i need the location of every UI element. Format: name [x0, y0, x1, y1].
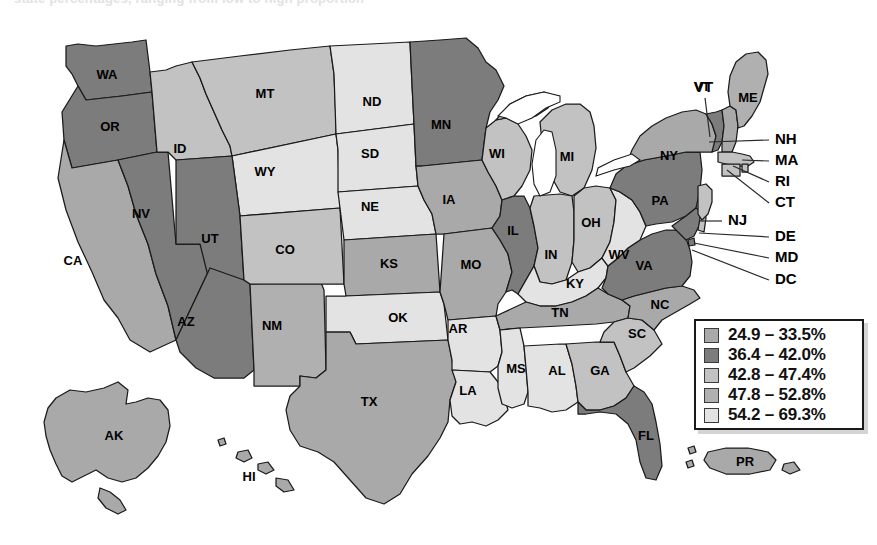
state-label-MI: MI — [560, 149, 574, 164]
legend-row[interactable]: 47.8 – 52.8% — [704, 385, 862, 405]
legend-row[interactable]: 54.2 – 69.3% — [704, 405, 862, 425]
state-label-MA: MA — [775, 151, 798, 168]
state-label-AL: AL — [548, 363, 565, 378]
state-label-WV: WV — [609, 247, 630, 262]
state-label-MS: MS — [506, 361, 526, 376]
state-label-ID: ID — [174, 141, 187, 156]
state-AK[interactable] — [44, 382, 170, 514]
state-label-AR: AR — [449, 321, 468, 336]
legend-row[interactable]: 24.9 – 33.5% — [704, 325, 862, 345]
legend-label: 24.9 – 33.5% — [728, 325, 826, 345]
state-label-NM: NM — [262, 318, 282, 333]
state-label-AZ: AZ — [177, 314, 194, 329]
state-label-DC: DC — [775, 270, 797, 287]
state-IN[interactable] — [530, 194, 574, 284]
state-label-UT: UT — [201, 231, 218, 246]
state-label-OH: OH — [581, 215, 601, 230]
state-label-HI: HI — [243, 469, 256, 484]
state-label-WA: WA — [97, 67, 119, 82]
state-label-OR: OR — [100, 119, 120, 134]
state-label-VA: VA — [635, 258, 653, 273]
map-canvas: state percentages, ranging from low to h… — [0, 0, 877, 545]
state-NJ[interactable] — [698, 184, 712, 220]
state-label-PA: PA — [651, 193, 669, 208]
state-label-MN: MN — [431, 117, 451, 132]
leader-line-DE — [699, 233, 769, 237]
state-CT[interactable] — [722, 164, 740, 176]
state-label-WY: WY — [255, 164, 276, 179]
state-label-FL: FL — [638, 428, 654, 443]
state-label-IN: IN — [545, 247, 558, 262]
state-label-ME: ME — [738, 90, 758, 105]
leader-line-CT — [727, 170, 769, 203]
state-label-OK: OK — [388, 310, 408, 325]
state-label-KY: KY — [566, 276, 584, 291]
state-label-TN: TN — [551, 305, 568, 320]
state-label-ND: ND — [363, 94, 382, 109]
map-states: WAORCANVIDMTWYUTAZNMCONDSDNEKSOKTXMNIAMO… — [44, 38, 800, 514]
legend-label: 47.8 – 52.8% — [728, 385, 826, 405]
us-map-svg: WAORCANVIDMTWYUTAZNMCONDSDNEKSOKTXMNIAMO… — [0, 0, 877, 545]
state-label-NH: NH — [775, 130, 797, 147]
state-label-VT: VT — [694, 78, 713, 95]
state-label-MO: MO — [461, 257, 482, 272]
leader-line-DC — [692, 250, 769, 280]
legend-swatch-icon — [704, 328, 719, 343]
state-label-DE: DE — [775, 227, 796, 244]
state-label-NC: NC — [651, 297, 670, 312]
legend-label: 42.8 – 47.4% — [728, 365, 826, 385]
state-label-KS: KS — [380, 256, 398, 271]
state-label-CO: CO — [275, 242, 295, 257]
state-label-SD: SD — [361, 146, 379, 161]
state-label-CA: CA — [64, 253, 83, 268]
lake-michigan — [532, 130, 556, 196]
state-label-NJ: NJ — [728, 211, 747, 228]
legend-row[interactable]: 42.8 – 47.4% — [704, 365, 862, 385]
state-label-CT: CT — [775, 193, 795, 210]
legend-row[interactable]: 36.4 – 42.0% — [704, 345, 862, 365]
state-HI[interactable] — [218, 438, 294, 492]
state-label-LA: LA — [459, 383, 477, 398]
state-label-PR: PR — [736, 454, 755, 469]
state-label-NY: NY — [660, 148, 678, 163]
state-DC[interactable] — [688, 238, 695, 246]
state-label-RI: RI — [775, 172, 790, 189]
state-label-WI: WI — [489, 146, 505, 161]
legend-swatch-icon — [704, 408, 719, 423]
state-label-MD: MD — [775, 248, 798, 265]
legend-swatch-icon — [704, 348, 719, 363]
map-legend: 24.9 – 33.5% 36.4 – 42.0% 42.8 – 47.4% 4… — [694, 319, 864, 430]
state-label-IL: IL — [507, 223, 519, 238]
legend-label: 36.4 – 42.0% — [728, 345, 826, 365]
state-label-NV: NV — [132, 206, 150, 221]
state-label-GA: GA — [590, 363, 610, 378]
state-label-NE: NE — [361, 199, 379, 214]
legend-swatch-icon — [704, 388, 719, 403]
state-label-MT: MT — [256, 86, 275, 101]
state-label-IA: IA — [443, 192, 457, 207]
state-label-AK: AK — [105, 428, 124, 443]
state-ND[interactable] — [330, 42, 414, 134]
state-label-TX: TX — [361, 394, 378, 409]
legend-swatch-icon — [704, 368, 719, 383]
state-label-SC: SC — [628, 326, 647, 341]
legend-label: 54.2 – 69.3% — [728, 405, 826, 425]
state-NH[interactable] — [722, 106, 738, 152]
